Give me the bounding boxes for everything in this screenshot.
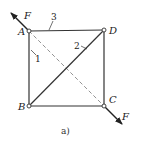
node-label-b: B	[17, 101, 25, 112]
node-a	[27, 29, 31, 33]
node-d	[102, 28, 106, 32]
member-3-ad	[29, 30, 104, 31]
node-b	[27, 104, 31, 108]
node-c	[102, 104, 106, 108]
force-label-c: F	[121, 111, 130, 122]
node-label-a: A	[17, 26, 25, 37]
member-label-2: 2	[74, 41, 80, 51]
force-arrow-c	[104, 106, 122, 124]
truss-diagram: F F A D B C 3 1 2 a)	[0, 0, 144, 150]
caption: a)	[61, 126, 70, 136]
leader-3	[49, 21, 53, 30]
member-label-1: 1	[35, 54, 41, 64]
node-label-c: C	[109, 94, 117, 105]
force-label-a: F	[23, 10, 32, 21]
node-label-d: D	[108, 25, 117, 36]
member-label-3: 3	[51, 12, 57, 22]
member-2-bd	[29, 30, 104, 106]
